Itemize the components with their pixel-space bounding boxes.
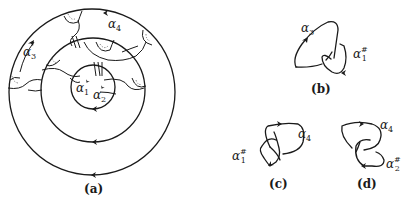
panel-c: α4 α#1 (c) — [232, 121, 311, 191]
knot-arc — [100, 92, 116, 94]
arrow-icon — [85, 79, 90, 84]
trefoil-strand — [322, 44, 346, 73]
label-alpha1-sharp: α#1 — [232, 147, 247, 165]
trefoil-strand — [270, 147, 280, 160]
caption-c: (c) — [269, 177, 288, 191]
disk-region — [142, 30, 152, 45]
knot-arc — [28, 90, 42, 91]
trefoil-strand — [342, 122, 381, 150]
dotted-arc — [136, 80, 142, 85]
label-alpha1-sharp: α#1 — [353, 45, 368, 63]
knot-strands — [94, 62, 102, 76]
label-alpha4: α4 — [380, 118, 393, 134]
label-alpha4: α4 — [298, 127, 311, 143]
dotted-arc — [52, 58, 58, 63]
panel-d: α4 α#2 (d) — [342, 118, 401, 191]
dotted-arc — [100, 44, 108, 48]
dotted-arc — [146, 34, 150, 41]
knot-arc — [8, 80, 42, 89]
disk-region — [10, 77, 20, 80]
label-alpha3: α3 — [301, 21, 314, 37]
caption-b: (b) — [311, 82, 331, 96]
trefoil-strand — [296, 64, 322, 67]
label-alpha2: α2 — [93, 88, 106, 104]
dotted-arc — [68, 14, 76, 19]
caption-d: (d) — [357, 177, 377, 191]
figure-canvas: α3 α4 α1 α2 (a) α3 α#1 (b) — [0, 0, 409, 206]
knot-arc — [104, 79, 144, 90]
label-alpha4: α4 — [108, 17, 121, 33]
label-alpha2-sharp: α#2 — [386, 155, 401, 173]
panel-b: α3 α#1 (b) — [295, 21, 368, 96]
label-alpha1: α1 — [76, 81, 89, 97]
knot-arc — [84, 42, 146, 61]
caption-a: (a) — [84, 182, 103, 196]
trefoil-strand — [260, 132, 279, 166]
arrow-left-icon — [103, 10, 108, 16]
outer-circle — [9, 9, 175, 175]
panel-a: α3 α4 α1 α2 (a) — [8, 9, 175, 196]
label-alpha3: α3 — [23, 45, 36, 61]
